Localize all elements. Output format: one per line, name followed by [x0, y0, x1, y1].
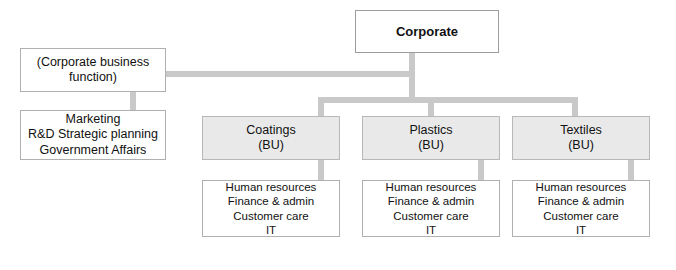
- node-business-unit-plastics-type: (BU): [418, 138, 444, 153]
- coatings-function-finance-admin: Finance & admin: [228, 194, 314, 208]
- node-corporate: Corporate: [355, 10, 499, 53]
- textiles-function-human-resources: Human resources: [536, 180, 627, 194]
- connector-business-function-to-functions: [130, 92, 136, 110]
- node-business-unit-textiles: Textiles (BU): [512, 116, 650, 160]
- corporate-function-government-affairs: Government Affairs: [40, 143, 147, 158]
- textiles-function-customer-care: Customer care: [543, 209, 618, 223]
- connector-bus-to-plastics: [428, 97, 434, 116]
- plastics-function-it: IT: [426, 223, 436, 237]
- corporate-function-rnd-strategic-planning: R&D Strategic planning: [28, 127, 158, 142]
- connector-plastics-to-functions: [478, 160, 484, 180]
- connector-bu-bus: [318, 97, 578, 103]
- textiles-function-it: IT: [576, 223, 586, 237]
- connector-bus-to-textiles: [572, 97, 578, 116]
- node-corporate-business-function: (Corporate business function): [20, 48, 166, 92]
- connector-coatings-to-functions: [318, 160, 324, 180]
- node-business-unit-plastics-name: Plastics: [409, 123, 452, 138]
- node-corporate-business-function-line-1: (Corporate business: [37, 55, 150, 70]
- node-coatings-functions: Human resources Finance & admin Customer…: [202, 180, 340, 237]
- node-corporate-business-function-line-2: function): [69, 70, 117, 85]
- node-business-unit-plastics: Plastics (BU): [362, 116, 500, 160]
- coatings-function-it: IT: [266, 223, 276, 237]
- node-business-unit-coatings: Coatings (BU): [202, 116, 340, 160]
- plastics-function-customer-care: Customer care: [393, 209, 468, 223]
- org-chart-diagram: Corporate (Corporate business function) …: [0, 0, 676, 270]
- plastics-function-human-resources: Human resources: [386, 180, 477, 194]
- node-corporate-label: Corporate: [396, 24, 458, 40]
- node-business-unit-coatings-name: Coatings: [246, 123, 295, 138]
- coatings-function-customer-care: Customer care: [233, 209, 308, 223]
- node-textiles-functions: Human resources Finance & admin Customer…: [512, 180, 650, 237]
- connector-bus-to-coatings: [318, 97, 324, 116]
- node-business-unit-textiles-name: Textiles: [560, 123, 602, 138]
- corporate-function-marketing: Marketing: [66, 112, 121, 127]
- connector-corporate-trunk: [409, 53, 415, 103]
- node-business-unit-coatings-type: (BU): [258, 138, 284, 153]
- node-corporate-functions: Marketing R&D Strategic planning Governm…: [20, 110, 166, 160]
- connector-textiles-to-functions: [628, 160, 634, 180]
- coatings-function-human-resources: Human resources: [226, 180, 317, 194]
- node-business-unit-textiles-type: (BU): [568, 138, 594, 153]
- node-plastics-functions: Human resources Finance & admin Customer…: [362, 180, 500, 237]
- connector-corporate-to-business-function: [166, 71, 412, 77]
- plastics-function-finance-admin: Finance & admin: [388, 194, 474, 208]
- textiles-function-finance-admin: Finance & admin: [538, 194, 624, 208]
